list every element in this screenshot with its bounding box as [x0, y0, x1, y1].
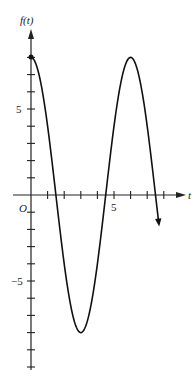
- x-tick-label-5: 5: [111, 201, 117, 213]
- start-point-dot: [29, 55, 34, 60]
- x-axis-label: t: [188, 189, 192, 201]
- y-axis-label: f(t): [20, 14, 34, 27]
- y-axis-arrow-icon: [28, 29, 34, 39]
- origin-label: O: [19, 202, 27, 214]
- y-tick-label-5: 5: [16, 103, 22, 115]
- x-axis-arrow-icon: [176, 192, 186, 198]
- function-plot: f(t) t O 5 5 −5: [0, 0, 196, 383]
- axes: [13, 38, 180, 370]
- y-tick-label-neg5: −5: [11, 275, 23, 287]
- curve-end-arrow-icon: [155, 218, 161, 226]
